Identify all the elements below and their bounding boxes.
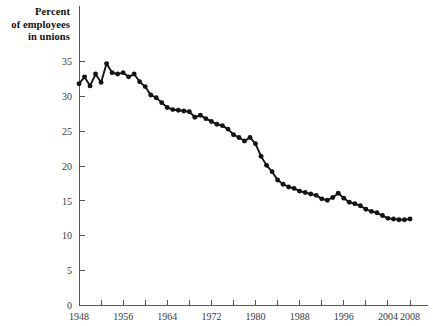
y-tick-label: 30 <box>62 91 72 102</box>
data-point <box>220 123 225 128</box>
data-point <box>110 70 115 75</box>
data-point <box>121 70 126 75</box>
data-point <box>308 192 313 197</box>
data-point <box>297 189 302 194</box>
data-point <box>226 127 231 132</box>
data-point <box>358 203 363 208</box>
x-tick-label: 2004 <box>378 311 398 322</box>
y-tick-label: 35 <box>62 56 72 67</box>
data-point <box>181 109 186 114</box>
data-point <box>165 105 170 110</box>
data-point <box>270 169 275 174</box>
data-point <box>275 178 280 183</box>
data-point <box>104 61 109 66</box>
data-series <box>77 61 413 222</box>
x-tick-label: 1964 <box>157 311 177 322</box>
data-point <box>231 132 236 137</box>
data-point <box>176 108 181 113</box>
data-point <box>380 213 385 218</box>
data-point <box>319 196 324 201</box>
data-point <box>385 216 390 221</box>
data-point <box>330 195 335 200</box>
data-point <box>336 191 341 196</box>
data-point <box>143 84 148 89</box>
data-point <box>303 190 308 195</box>
y-tick-label: 5 <box>67 265 72 276</box>
data-point <box>88 83 93 88</box>
data-point <box>82 74 87 79</box>
x-axis: 194819561964197219801988199620042008 <box>69 300 428 322</box>
data-point <box>77 81 82 86</box>
data-point <box>192 115 197 120</box>
data-point <box>314 193 319 198</box>
data-point <box>281 182 286 187</box>
plot-area: 05101520253035 1948195619641972198019881… <box>0 0 433 326</box>
y-tick-label: 20 <box>62 161 72 172</box>
data-point <box>286 185 291 190</box>
union-membership-chart: Percent of employees in unions 051015202… <box>0 0 433 326</box>
y-tick-label: 25 <box>62 126 72 137</box>
data-point <box>325 198 330 203</box>
x-tick-label: 1980 <box>246 311 266 322</box>
data-point <box>341 196 346 201</box>
data-point <box>93 72 98 77</box>
y-axis: 05101520253035 <box>62 6 85 311</box>
data-point <box>99 80 104 85</box>
data-point <box>408 217 413 222</box>
data-point <box>292 186 297 191</box>
data-point <box>148 93 153 98</box>
data-point <box>391 217 396 222</box>
x-tick-label: 1988 <box>290 311 310 322</box>
data-point <box>154 95 159 100</box>
data-point <box>259 154 264 159</box>
x-tick-label: 1996 <box>334 311 354 322</box>
data-point <box>397 217 402 222</box>
data-point <box>363 207 368 212</box>
y-tick-label: 0 <box>67 300 72 311</box>
data-point <box>242 139 247 144</box>
data-point <box>253 141 258 146</box>
data-point <box>187 109 192 114</box>
data-point <box>209 119 214 124</box>
data-point <box>352 201 357 206</box>
data-point <box>347 200 352 205</box>
x-tick-label: 1948 <box>69 311 89 322</box>
y-tick-label: 10 <box>62 230 72 241</box>
data-point <box>159 100 164 105</box>
x-tick-label: 2008 <box>400 311 420 322</box>
data-point <box>374 210 379 215</box>
data-point <box>214 122 219 127</box>
data-point <box>203 116 208 121</box>
x-tick-label: 1956 <box>113 311 133 322</box>
data-point <box>132 72 137 77</box>
data-point <box>170 107 175 112</box>
y-tick-label: 15 <box>62 196 72 207</box>
data-point <box>248 135 253 140</box>
data-point <box>237 135 242 140</box>
x-tick-label: 1972 <box>201 311 221 322</box>
data-point <box>115 72 120 77</box>
data-point <box>137 79 142 84</box>
data-point <box>198 113 203 118</box>
data-point <box>126 74 131 79</box>
data-point <box>402 217 407 222</box>
data-point <box>369 209 374 214</box>
data-point <box>264 163 269 168</box>
